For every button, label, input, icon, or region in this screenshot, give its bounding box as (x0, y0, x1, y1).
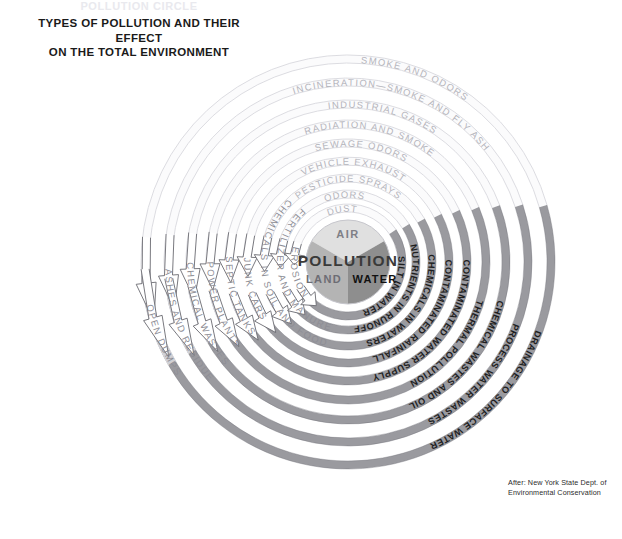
ring-label-air-2: ODORS (323, 189, 367, 204)
supertitle: POLLUTION CIRCLE (14, 0, 264, 11)
title-block: POLLUTION CIRCLE TYPES OF POLLUTION AND … (14, 0, 264, 60)
credit-line-2: Environmental Conservation (508, 488, 620, 498)
pollution-circle-diagram: AIRPOLLUTIONLANDWATER DUSTODORSPESTICIDE… (0, 0, 622, 539)
ring-label-air-1: DUST (325, 203, 358, 218)
core-label-land: LAND (306, 273, 342, 285)
credit-line-1: After: New York State Dept. of (508, 478, 620, 488)
page-title-line2: ON THE TOTAL ENVIRONMENT (49, 46, 229, 58)
core-label-air: AIR (336, 228, 360, 240)
core-wheel: AIRPOLLUTIONLANDWATER (298, 220, 398, 304)
core-label-water: WATER (353, 273, 398, 285)
diagram-canvas: AIRPOLLUTIONLANDWATER DUSTODORSPESTICIDE… (0, 0, 622, 539)
core-label-pollution: POLLUTION (298, 252, 398, 269)
source-credit: After: New York State Dept. of Environme… (508, 478, 620, 497)
page-title: TYPES OF POLLUTION AND THEIR EFFECT ON T… (14, 16, 264, 60)
page-title-line1: TYPES OF POLLUTION AND THEIR EFFECT (38, 17, 240, 44)
